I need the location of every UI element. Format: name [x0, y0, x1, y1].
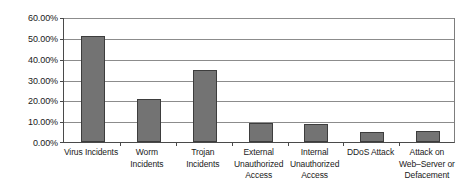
x-label-line: Unauthorized — [284, 159, 345, 171]
x-tick-mark — [120, 142, 121, 146]
y-axis: 60.00% 50.00% 40.00% 30.00% 20.00% 10.00… — [0, 0, 58, 191]
bar-attack-on-web-server-or-defacement — [416, 131, 440, 142]
y-tick-mark — [60, 142, 64, 143]
bar-ddos-attack — [360, 132, 384, 142]
y-tick-label: 30.00% — [0, 77, 58, 86]
x-label-trojan-incidents: Trojan Incidents — [174, 147, 231, 170]
y-tick-label: 10.00% — [0, 118, 58, 127]
x-label-external-unauthorized-access: External Unauthorized Access — [228, 147, 289, 182]
bar-virus-incidents — [81, 36, 105, 142]
x-label-internal-unauthorized-access: Internal Unauthorized Access — [284, 147, 345, 182]
bar-worm-incidents — [137, 99, 161, 142]
x-label-line: External — [228, 147, 289, 159]
x-label-line: Access — [228, 170, 289, 182]
x-tick-mark — [232, 142, 233, 146]
y-tick-label: 40.00% — [0, 56, 58, 65]
bars-layer — [64, 18, 454, 142]
x-label-ddos-attack: DDoS Attack — [341, 147, 400, 159]
x-label-line: Unauthorized — [228, 159, 289, 171]
plot-area — [63, 18, 455, 143]
x-axis: Virus Incidents Worm Incidents Trojan In… — [63, 147, 455, 191]
bar-trojan-incidents — [193, 70, 217, 142]
x-label-virus-incidents: Virus Incidents — [63, 147, 120, 159]
y-tick-label: 50.00% — [0, 35, 58, 44]
bar-external-unauthorized-access — [249, 123, 273, 142]
y-tick-label: 20.00% — [0, 97, 58, 106]
x-label-line: Worm — [118, 147, 175, 159]
bar-chart: 60.00% 50.00% 40.00% 30.00% 20.00% 10.00… — [0, 0, 476, 191]
x-label-line: Access — [284, 170, 345, 182]
x-tick-mark — [343, 142, 344, 146]
x-label-line: Internal — [284, 147, 345, 159]
x-label-line: Attack on — [395, 147, 459, 159]
x-tick-mark — [288, 142, 289, 146]
x-label-line: Incidents — [174, 159, 231, 171]
x-label-line: Defacement — [395, 170, 459, 182]
x-label-worm-incidents: Worm Incidents — [118, 147, 175, 170]
x-label-line: Virus Incidents — [63, 147, 120, 159]
x-tick-mark — [176, 142, 177, 146]
x-label-attack-on-web-server-or-defacement: Attack on Web–Server or Defacement — [395, 147, 459, 182]
x-tick-mark — [399, 142, 400, 146]
y-tick-label: 0.00% — [0, 139, 58, 148]
x-label-line: DDoS Attack — [341, 147, 400, 159]
x-label-line: Trojan — [174, 147, 231, 159]
x-label-line: Incidents — [118, 159, 175, 171]
bar-internal-unauthorized-access — [304, 124, 328, 142]
y-tick-label: 60.00% — [0, 14, 58, 23]
x-label-line: Web–Server or — [395, 159, 459, 171]
